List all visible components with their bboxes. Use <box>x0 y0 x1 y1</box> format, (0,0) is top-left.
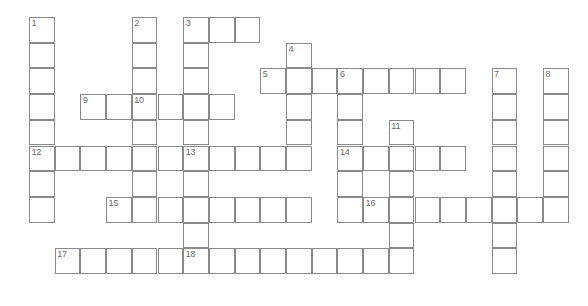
crossword-cell[interactable] <box>363 68 389 94</box>
crossword-cell[interactable] <box>389 223 415 249</box>
crossword-cell[interactable] <box>466 197 492 223</box>
crossword-cell[interactable] <box>543 94 569 120</box>
crossword-cell[interactable]: 1 <box>29 17 55 43</box>
crossword-cell[interactable] <box>106 248 132 274</box>
crossword-cell[interactable] <box>543 120 569 146</box>
crossword-cell[interactable] <box>132 146 158 172</box>
crossword-cell[interactable] <box>183 43 209 69</box>
crossword-cell[interactable]: 11 <box>389 120 415 146</box>
crossword-cell[interactable] <box>389 197 415 223</box>
crossword-cell[interactable] <box>415 146 441 172</box>
crossword-cell[interactable] <box>389 248 415 274</box>
crossword-cell[interactable] <box>260 146 286 172</box>
crossword-cell[interactable] <box>209 248 235 274</box>
crossword-cell[interactable] <box>440 197 466 223</box>
crossword-cell[interactable] <box>492 248 518 274</box>
crossword-cell[interactable]: 14 <box>337 146 363 172</box>
crossword-cell[interactable] <box>492 94 518 120</box>
crossword-cell[interactable]: 15 <box>106 197 132 223</box>
crossword-cell[interactable] <box>286 146 312 172</box>
crossword-cell[interactable] <box>29 120 55 146</box>
crossword-cell[interactable] <box>415 68 441 94</box>
crossword-cell[interactable]: 18 <box>183 248 209 274</box>
crossword-cell[interactable] <box>80 248 106 274</box>
crossword-cell[interactable] <box>389 171 415 197</box>
crossword-cell[interactable] <box>543 171 569 197</box>
crossword-cell[interactable] <box>415 197 441 223</box>
crossword-cell[interactable] <box>286 94 312 120</box>
crossword-cell[interactable] <box>492 197 518 223</box>
crossword-cell[interactable]: 5 <box>260 68 286 94</box>
crossword-cell[interactable] <box>106 146 132 172</box>
crossword-cell[interactable]: 7 <box>492 68 518 94</box>
crossword-cell[interactable] <box>158 248 184 274</box>
crossword-cell[interactable] <box>260 248 286 274</box>
crossword-cell[interactable] <box>235 197 261 223</box>
crossword-cell[interactable] <box>286 68 312 94</box>
crossword-cell[interactable] <box>492 171 518 197</box>
crossword-cell[interactable] <box>29 197 55 223</box>
crossword-cell[interactable] <box>543 197 569 223</box>
crossword-cell[interactable] <box>183 171 209 197</box>
crossword-cell[interactable]: 9 <box>80 94 106 120</box>
crossword-cell[interactable] <box>389 68 415 94</box>
crossword-cell[interactable] <box>235 17 261 43</box>
crossword-cell[interactable] <box>106 94 132 120</box>
crossword-cell[interactable]: 10 <box>132 94 158 120</box>
crossword-cell[interactable] <box>183 94 209 120</box>
crossword-cell[interactable] <box>337 171 363 197</box>
crossword-cell[interactable] <box>80 146 106 172</box>
crossword-cell[interactable] <box>132 171 158 197</box>
crossword-cell[interactable] <box>260 197 286 223</box>
crossword-cell[interactable] <box>183 120 209 146</box>
crossword-cell[interactable] <box>183 68 209 94</box>
crossword-cell[interactable] <box>132 120 158 146</box>
crossword-cell[interactable] <box>440 146 466 172</box>
crossword-cell[interactable] <box>363 146 389 172</box>
crossword-cell[interactable] <box>235 146 261 172</box>
crossword-cell[interactable] <box>337 120 363 146</box>
crossword-cell[interactable]: 4 <box>286 43 312 69</box>
crossword-cell[interactable] <box>286 197 312 223</box>
crossword-cell[interactable] <box>29 43 55 69</box>
crossword-cell[interactable] <box>209 17 235 43</box>
crossword-cell[interactable] <box>312 248 338 274</box>
crossword-cell[interactable] <box>132 43 158 69</box>
crossword-cell[interactable]: 17 <box>55 248 81 274</box>
crossword-cell[interactable] <box>337 94 363 120</box>
crossword-cell[interactable] <box>158 94 184 120</box>
crossword-cell[interactable] <box>363 248 389 274</box>
crossword-cell[interactable] <box>29 68 55 94</box>
crossword-cell[interactable]: 8 <box>543 68 569 94</box>
crossword-cell[interactable] <box>132 197 158 223</box>
crossword-cell[interactable] <box>543 146 569 172</box>
crossword-cell[interactable] <box>337 248 363 274</box>
crossword-cell[interactable] <box>55 146 81 172</box>
crossword-cell[interactable] <box>209 146 235 172</box>
crossword-cell[interactable] <box>29 94 55 120</box>
crossword-cell[interactable]: 12 <box>29 146 55 172</box>
crossword-cell[interactable] <box>312 68 338 94</box>
crossword-cell[interactable]: 3 <box>183 17 209 43</box>
crossword-cell[interactable] <box>492 120 518 146</box>
crossword-cell[interactable] <box>389 146 415 172</box>
crossword-cell[interactable] <box>517 197 543 223</box>
crossword-cell[interactable] <box>158 197 184 223</box>
crossword-cell[interactable] <box>286 248 312 274</box>
crossword-cell[interactable] <box>492 223 518 249</box>
crossword-cell[interactable] <box>158 146 184 172</box>
crossword-cell[interactable] <box>235 248 261 274</box>
crossword-cell[interactable] <box>492 146 518 172</box>
crossword-cell[interactable] <box>183 223 209 249</box>
crossword-cell[interactable] <box>440 68 466 94</box>
crossword-cell[interactable] <box>286 120 312 146</box>
crossword-cell[interactable] <box>209 197 235 223</box>
crossword-cell[interactable]: 6 <box>337 68 363 94</box>
crossword-cell[interactable] <box>183 197 209 223</box>
crossword-cell[interactable] <box>132 248 158 274</box>
crossword-cell[interactable] <box>337 197 363 223</box>
crossword-cell[interactable]: 16 <box>363 197 389 223</box>
crossword-cell[interactable]: 13 <box>183 146 209 172</box>
crossword-cell[interactable] <box>209 94 235 120</box>
crossword-cell[interactable]: 2 <box>132 17 158 43</box>
